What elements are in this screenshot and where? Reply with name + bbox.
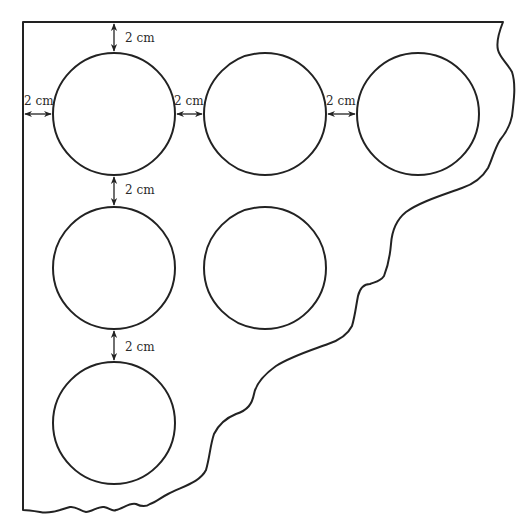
sheet-outline xyxy=(23,22,514,513)
circle-row3-col1 xyxy=(53,362,175,484)
circle-row2-col1 xyxy=(53,207,175,329)
circle-row1-col2 xyxy=(204,53,326,175)
circle-row2-col2 xyxy=(204,207,326,329)
dimension-label-top-gap: 2 cm xyxy=(125,32,155,44)
dimension-label-gap-row1-row2: 2 cm xyxy=(125,184,155,196)
dimension-label-gap-col1-col2: 2 cm xyxy=(174,95,204,107)
diagram-canvas xyxy=(0,0,529,529)
dimension-label-gap-row2-row3: 2 cm xyxy=(125,341,155,353)
dimension-label-gap-col2-col3: 2 cm xyxy=(326,95,356,107)
circle-row1-col3 xyxy=(357,53,479,175)
circle-row1-col1 xyxy=(53,53,175,175)
dimension-label-left-gap: 2 cm xyxy=(24,95,54,107)
